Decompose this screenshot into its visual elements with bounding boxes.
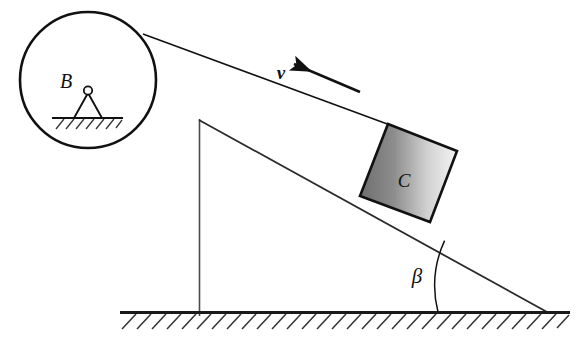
- pivot-support: B: [52, 70, 123, 129]
- angle-label: β: [411, 264, 423, 288]
- sliding-block-label: C: [398, 170, 411, 191]
- sliding-block: C: [360, 124, 457, 222]
- cord-line: [143, 34, 390, 125]
- figure-root: B C v β: [0, 0, 583, 349]
- pivot-hatching: [56, 119, 122, 129]
- velocity-arrow-shaft: [294, 64, 360, 92]
- pulley-support-label: B: [60, 70, 72, 92]
- inclined-plane-diagram: B C v β: [0, 0, 583, 349]
- ground-hatching: [122, 314, 569, 329]
- incline-surface: [199, 120, 547, 312]
- pivot-hinge-icon: [84, 86, 92, 94]
- ground-line: [120, 313, 570, 330]
- velocity-label: v: [277, 62, 286, 83]
- pivot-triangle: [74, 93, 102, 118]
- pulley-circle: [20, 12, 156, 148]
- angle-arc: β: [411, 241, 445, 312]
